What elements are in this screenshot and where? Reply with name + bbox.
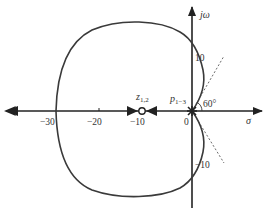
x-tick-label-neg30: −30 [40, 117, 55, 127]
pole-label: p1−3 [169, 93, 186, 106]
locus-arrow-left-icon [146, 106, 157, 116]
y-axis-label: jω [198, 9, 210, 20]
x-tick-label-0: 0 [184, 117, 189, 127]
locus-arrow-right-icon [127, 106, 138, 116]
angle-arc [197, 102, 202, 111]
angle-label: 60° [203, 99, 217, 109]
y-tick-label-neg10: −10 [195, 160, 210, 170]
zero-marker-icon [139, 108, 145, 114]
root-locus-diagram: jω σ −30 −20 −10 0 10 −10 z1,2 p1−3 60° [0, 0, 267, 214]
x-tick-label-neg20: −20 [87, 117, 102, 127]
y-tick-label-10: 10 [195, 53, 205, 63]
asymptote-lower [192, 111, 224, 163]
locus-arrow-left-far-icon [6, 106, 18, 116]
zero-label: z1,2 [135, 91, 149, 104]
pole-marker-icon [187, 106, 197, 116]
x-axis-label: σ [246, 115, 252, 126]
x-tick-label-neg10: −10 [130, 117, 145, 127]
